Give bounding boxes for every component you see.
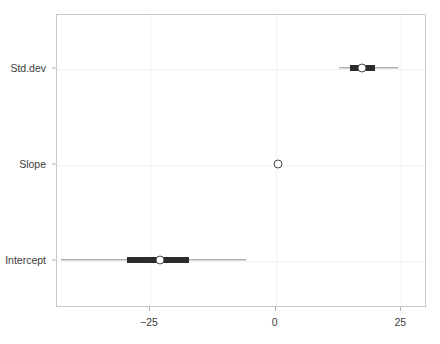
- point-estimate-marker: [357, 64, 366, 73]
- x-tick-mark: [275, 307, 276, 311]
- y-tick-label-slope: Slope: [0, 158, 46, 170]
- y-tick-label-intercept: Intercept: [0, 254, 46, 266]
- point-estimate-marker: [273, 160, 282, 169]
- y-tick-mark: [52, 68, 56, 69]
- vertical-gridline: [401, 15, 402, 306]
- plot-panel: [56, 14, 426, 307]
- point-estimate-marker: [155, 256, 164, 265]
- x-tick-mark: [400, 307, 401, 311]
- x-tick-label: 0: [272, 316, 278, 328]
- y-tick-mark: [52, 260, 56, 261]
- x-tick-mark: [149, 307, 150, 311]
- horizontal-gridline: [57, 165, 425, 166]
- interval-plot: −25025Std.devSlopeIntercept: [0, 0, 440, 344]
- y-tick-mark: [52, 164, 56, 165]
- x-tick-label: −25: [140, 316, 158, 328]
- x-tick-label: 25: [395, 316, 407, 328]
- horizontal-gridline: [57, 261, 425, 262]
- y-tick-label-std-dev: Std.dev: [0, 62, 46, 74]
